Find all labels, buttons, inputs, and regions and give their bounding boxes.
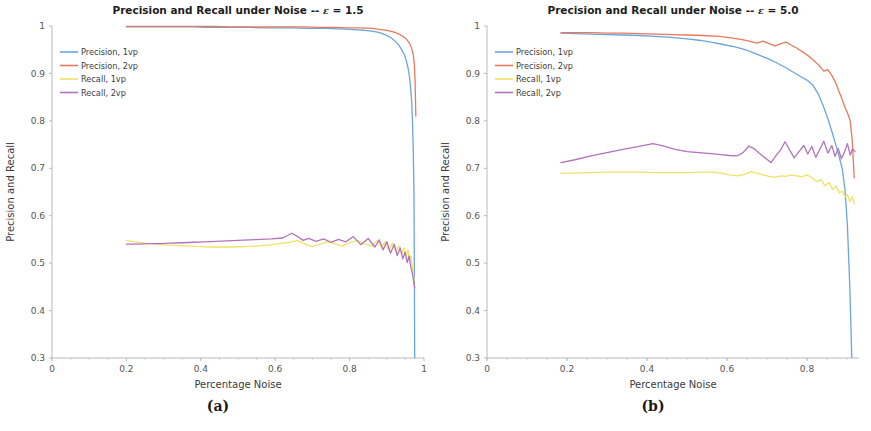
y-tick-label: 0.3 <box>466 353 480 363</box>
y-tick-label: 1 <box>39 21 45 31</box>
y-tick-label: 0.8 <box>31 116 46 126</box>
legend-label: Recall, 1vp <box>81 74 126 84</box>
x-tick-label: 0.6 <box>268 364 283 374</box>
series-line <box>561 141 855 162</box>
legend-label: Precision, 1vp <box>516 47 573 57</box>
series-line <box>126 233 414 288</box>
legend-label: Precision, 1vp <box>81 47 138 57</box>
y-tick-label: 0.6 <box>31 211 46 221</box>
y-tick-label: 0.5 <box>31 258 45 268</box>
x-axis-label: Percentage Noise <box>194 379 281 390</box>
series-line <box>561 33 852 358</box>
legend-label: Recall, 2vp <box>516 88 561 98</box>
y-axis-label: Precision and Recall <box>440 142 451 242</box>
series-group <box>561 33 855 358</box>
y-tick-label: 1 <box>474 21 480 31</box>
y-tick-label: 0.4 <box>31 306 46 316</box>
series-line <box>126 240 414 280</box>
y-tick-label: 0.7 <box>466 163 480 173</box>
legend: Precision, 1vpPrecision, 2vpRecall, 1vpR… <box>60 47 138 97</box>
x-tick-label: 0 <box>49 364 55 374</box>
subcaption-b: (b) <box>435 398 871 414</box>
x-tick-label: 1 <box>421 364 427 374</box>
y-tick-label: 0.6 <box>466 211 481 221</box>
x-axis-label: Percentage Noise <box>629 379 716 390</box>
x-tick-label: 0 <box>484 364 490 374</box>
legend-label: Precision, 2vp <box>81 61 138 71</box>
x-tick-label: 0.4 <box>640 364 655 374</box>
x-tick-label: 0.6 <box>720 364 735 374</box>
x-tick-label: 0.2 <box>560 364 574 374</box>
y-tick-label: 0.9 <box>466 69 481 79</box>
chart-title: Precision and Recall under Noise -- ε = … <box>112 4 363 16</box>
x-tick-label: 0.8 <box>800 364 815 374</box>
figure-root: Precision and Recall under Noise -- ε = … <box>0 0 871 431</box>
legend-label: Recall, 2vp <box>81 88 126 98</box>
series-group <box>126 26 415 358</box>
series-line <box>561 172 854 204</box>
chart-b-svg: Precision and Recall under Noise -- ε = … <box>435 0 871 400</box>
y-tick-label: 0.9 <box>31 69 46 79</box>
y-tick-label: 0.4 <box>466 306 481 316</box>
series-line <box>561 33 854 178</box>
y-tick-label: 0.7 <box>31 163 45 173</box>
legend-label: Recall, 1vp <box>516 74 561 84</box>
series-line <box>126 27 414 358</box>
x-tick-label: 0.2 <box>119 364 133 374</box>
legend: Precision, 1vpPrecision, 2vpRecall, 1vpR… <box>495 47 573 97</box>
series-line <box>126 26 415 116</box>
y-tick-label: 0.3 <box>31 353 45 363</box>
subcaption-a: (a) <box>0 398 436 414</box>
legend-label: Precision, 2vp <box>516 61 573 71</box>
x-tick-label: 0.8 <box>342 364 357 374</box>
y-axis-label: Precision and Recall <box>5 142 16 242</box>
y-tick-label: 0.8 <box>466 116 481 126</box>
chart-panel-b: Precision and Recall under Noise -- ε = … <box>435 0 871 431</box>
chart-title: Precision and Recall under Noise -- ε = … <box>547 4 798 16</box>
chart-a-svg: Precision and Recall under Noise -- ε = … <box>0 0 436 400</box>
x-tick-label: 0.4 <box>194 364 209 374</box>
chart-panel-a: Precision and Recall under Noise -- ε = … <box>0 0 436 431</box>
y-tick-label: 0.5 <box>466 258 480 268</box>
